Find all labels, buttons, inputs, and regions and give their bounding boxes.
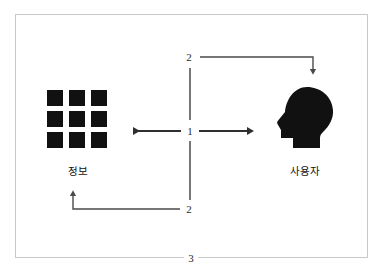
head-silhouette-icon	[276, 86, 334, 150]
grid-squares-icon	[47, 90, 107, 148]
diagram-canvas: 정보 사용자 1 2 2 3	[0, 0, 384, 279]
user-label: 사용자	[290, 163, 321, 178]
bottom-arrow-path	[73, 196, 180, 209]
flow-label-bottom: 2	[186, 203, 192, 215]
grid-cell	[91, 132, 107, 148]
grid-cell	[91, 111, 107, 127]
flow-label-center: 1	[184, 125, 196, 137]
grid-cell	[69, 132, 85, 148]
grid-cell	[47, 90, 63, 106]
flow-label-top: 2	[186, 51, 192, 63]
head-silhouette-shape	[276, 86, 334, 150]
grid-cell	[47, 132, 63, 148]
top-arrow-path	[200, 57, 313, 69]
grid-cell	[91, 90, 107, 106]
flow-label-frame-bottom: 3	[184, 252, 198, 264]
grid-cell	[69, 111, 85, 127]
grid-cell	[47, 111, 63, 127]
grid-cell	[69, 90, 85, 106]
information-label: 정보	[68, 163, 88, 178]
